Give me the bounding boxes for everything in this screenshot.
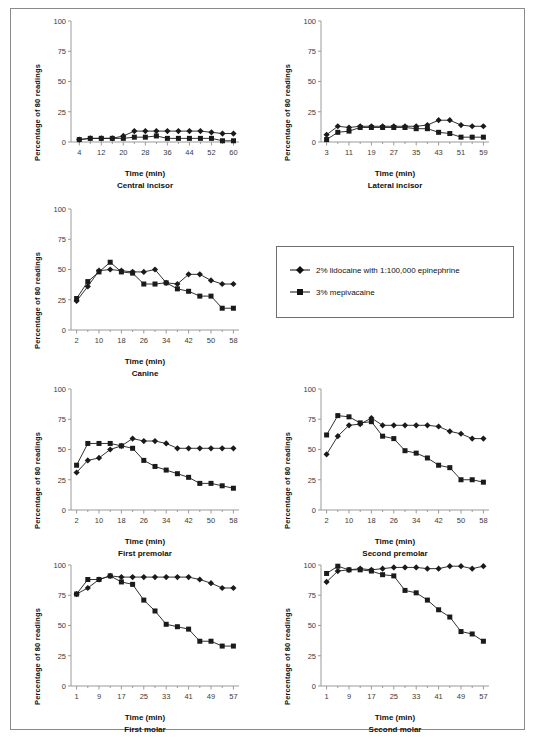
svg-text:50: 50	[58, 265, 66, 274]
y-axis-label: Percentage of 80 readings	[33, 252, 42, 349]
svg-text:2: 2	[75, 516, 79, 525]
svg-text:44: 44	[185, 148, 193, 157]
svg-text:100: 100	[53, 205, 66, 214]
plot-area: 0255075100311192735435159	[295, 13, 495, 168]
legend: 2% lidocaine with 1:100,000 epinephrine …	[276, 246, 514, 318]
svg-text:26: 26	[140, 516, 148, 525]
svg-text:17: 17	[117, 692, 125, 701]
svg-text:25: 25	[308, 652, 316, 661]
svg-text:19: 19	[367, 148, 375, 157]
y-axis-label: Percentage of 80 readings	[33, 64, 42, 161]
svg-text:11: 11	[345, 148, 353, 157]
svg-text:33: 33	[412, 692, 420, 701]
svg-text:59: 59	[479, 148, 487, 157]
panel-title: First molar	[45, 725, 245, 734]
svg-text:100: 100	[53, 385, 66, 394]
figure-frame: Percentage of 80 readings 02550751004122…	[10, 8, 525, 730]
svg-text:34: 34	[412, 516, 420, 525]
svg-text:1: 1	[75, 692, 79, 701]
x-axis-label: Time (min)	[295, 713, 495, 722]
panel-lateral-incisor: Percentage of 80 readings 02550751003111…	[273, 13, 513, 203]
svg-text:25: 25	[390, 692, 398, 701]
svg-text:43: 43	[434, 148, 442, 157]
svg-text:4: 4	[77, 148, 81, 157]
svg-text:51: 51	[457, 148, 465, 157]
x-axis-label: Time (min)	[295, 537, 495, 546]
svg-text:50: 50	[207, 516, 215, 525]
plot-area: 0255075100210182634425058	[45, 381, 245, 536]
y-axis-label: Percentage of 80 readings	[283, 608, 292, 705]
svg-text:26: 26	[390, 516, 398, 525]
svg-text:75: 75	[58, 415, 66, 424]
svg-text:25: 25	[308, 108, 316, 117]
x-axis-label: Time (min)	[45, 357, 245, 366]
plot-area: 0255075100210182634425058	[295, 381, 495, 536]
svg-text:49: 49	[457, 692, 465, 701]
diamond-marker-icon	[289, 261, 311, 279]
svg-text:50: 50	[58, 77, 66, 86]
svg-text:42: 42	[184, 516, 192, 525]
svg-text:26: 26	[140, 336, 148, 345]
x-axis-label: Time (min)	[45, 713, 245, 722]
panel-title: Central incisor	[45, 181, 245, 190]
panel-canine: Percentage of 80 readings 02550751002101…	[23, 201, 253, 386]
panel-second-premolar: Percentage of 80 readings 02550751002101…	[273, 381, 513, 566]
svg-text:42: 42	[434, 516, 442, 525]
svg-text:34: 34	[162, 516, 170, 525]
svg-text:1: 1	[325, 692, 329, 701]
svg-text:25: 25	[308, 476, 316, 485]
svg-text:50: 50	[308, 77, 316, 86]
plot-area: 0255075100412202836445260	[45, 13, 245, 168]
panel-title: Canine	[45, 369, 245, 378]
panel-second-molar: Percentage of 80 readings 02550751001917…	[273, 557, 513, 739]
panel-title: Second molar	[295, 725, 495, 734]
legend-label: 3% mepivacaine	[316, 288, 375, 297]
panel-first-molar: Percentage of 80 readings 02550751001917…	[23, 557, 253, 739]
svg-text:58: 58	[229, 516, 237, 525]
legend-label: 2% lidocaine with 1:100,000 epinephrine	[316, 266, 460, 275]
x-axis-label: Time (min)	[45, 537, 245, 546]
svg-text:75: 75	[58, 235, 66, 244]
svg-text:18: 18	[117, 516, 125, 525]
svg-text:0: 0	[62, 326, 66, 335]
y-axis-label: Percentage of 80 readings	[33, 432, 42, 529]
svg-text:50: 50	[457, 516, 465, 525]
svg-text:25: 25	[58, 108, 66, 117]
svg-text:25: 25	[58, 296, 66, 305]
svg-text:3: 3	[325, 148, 329, 157]
svg-text:57: 57	[479, 692, 487, 701]
svg-text:17: 17	[367, 692, 375, 701]
svg-text:100: 100	[53, 561, 66, 570]
svg-text:25: 25	[58, 476, 66, 485]
svg-text:18: 18	[117, 336, 125, 345]
svg-text:20: 20	[119, 148, 127, 157]
svg-text:27: 27	[390, 148, 398, 157]
x-axis-label: Time (min)	[295, 169, 495, 178]
svg-text:75: 75	[308, 415, 316, 424]
svg-text:2: 2	[75, 336, 79, 345]
svg-text:50: 50	[58, 621, 66, 630]
x-axis-label: Time (min)	[45, 169, 245, 178]
svg-text:0: 0	[62, 138, 66, 147]
svg-text:9: 9	[347, 692, 351, 701]
svg-text:41: 41	[434, 692, 442, 701]
svg-text:75: 75	[308, 591, 316, 600]
svg-text:10: 10	[95, 516, 103, 525]
svg-text:12: 12	[97, 148, 105, 157]
svg-text:58: 58	[229, 336, 237, 345]
svg-text:28: 28	[141, 148, 149, 157]
square-marker-icon	[289, 283, 311, 301]
svg-text:75: 75	[308, 47, 316, 56]
svg-text:100: 100	[303, 561, 316, 570]
svg-text:100: 100	[53, 17, 66, 26]
plot-area: 025507510019172533414957	[45, 557, 245, 712]
svg-text:10: 10	[95, 336, 103, 345]
svg-text:58: 58	[479, 516, 487, 525]
svg-text:49: 49	[207, 692, 215, 701]
panel-first-premolar: Percentage of 80 readings 02550751002101…	[23, 381, 253, 566]
panel-central-incisor: Percentage of 80 readings 02550751004122…	[23, 13, 253, 203]
panel-title: Lateral incisor	[295, 181, 495, 190]
svg-text:100: 100	[303, 385, 316, 394]
svg-text:41: 41	[184, 692, 192, 701]
svg-text:35: 35	[412, 148, 420, 157]
